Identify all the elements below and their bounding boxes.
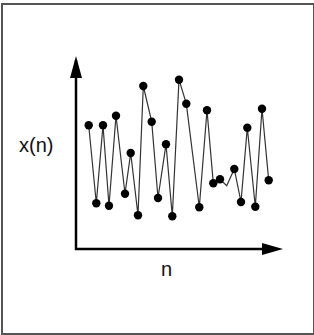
- data-point: [251, 203, 259, 211]
- data-point: [112, 112, 120, 120]
- data-point: [154, 194, 162, 202]
- data-point: [230, 165, 238, 173]
- data-point: [243, 124, 251, 132]
- signal-line: [89, 80, 269, 217]
- signal-plot: [0, 0, 314, 335]
- data-point: [216, 175, 224, 183]
- data-point: [265, 176, 273, 184]
- axes: [70, 56, 283, 255]
- data-point: [162, 140, 170, 148]
- data-point: [99, 121, 107, 129]
- y-arrowhead-icon: [70, 56, 82, 78]
- data-point: [148, 118, 156, 126]
- data-point: [85, 121, 93, 129]
- data-point: [237, 198, 245, 206]
- data-point: [105, 202, 113, 210]
- data-point: [121, 190, 129, 198]
- data-point: [195, 203, 203, 211]
- data-point: [258, 105, 266, 113]
- data-point: [182, 100, 190, 108]
- x-arrowhead-icon: [262, 243, 283, 255]
- data-point: [203, 106, 211, 114]
- data-point: [92, 199, 100, 207]
- data-point: [139, 82, 147, 90]
- data-point: [134, 211, 142, 219]
- data-point: [168, 212, 176, 220]
- x-axis-label: n: [161, 258, 172, 281]
- data-point: [127, 149, 135, 157]
- data-point: [175, 76, 183, 84]
- y-axis-label: x(n): [19, 134, 53, 157]
